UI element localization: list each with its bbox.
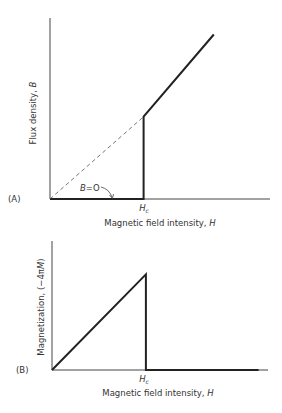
- panel-a-series-0: [50, 35, 214, 200]
- panel-b-ylabel: Magnetization, (−4πM): [36, 258, 46, 355]
- panel-a-annotation-b0: B=O: [80, 183, 100, 193]
- panel-a: (A) Flux density, B Magnetic field inten…: [8, 18, 270, 228]
- panel-a-label: (A): [8, 194, 20, 204]
- panel-b-xlabel: Magnetic field intensity, H: [102, 388, 214, 398]
- panel-b: (B) Magnetization, (−4πM) Magnetic field…: [16, 241, 268, 398]
- figure: (A) Flux density, B Magnetic field inten…: [0, 0, 282, 413]
- panel-b-tick-hc: Hc: [139, 374, 149, 385]
- panel-b-label: (B): [16, 365, 28, 375]
- panel-a-ylabel: Flux density, B: [28, 81, 38, 144]
- panel-a-tick-hc: Hc: [139, 203, 149, 214]
- panel-a-xlabel: Magnetic field intensity, H: [104, 218, 216, 228]
- panel-b-series-0: [52, 274, 259, 370]
